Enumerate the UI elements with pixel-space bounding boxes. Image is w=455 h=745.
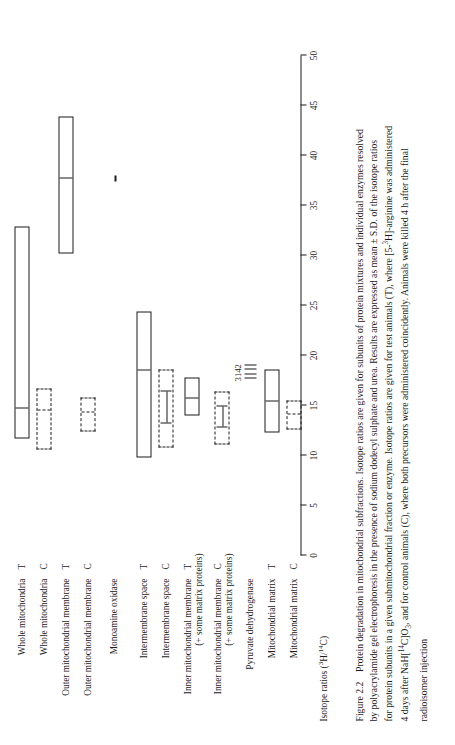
figure-number: Figure 2.2 bbox=[353, 681, 364, 721]
data-annotation-number: 2 bbox=[233, 364, 242, 368]
caption-line-4: 4 days after NaH[14C]O3, and for control… bbox=[395, 21, 416, 721]
category-label-mitochondrial-matrix-c: Mitochondrial matrixC bbox=[288, 553, 299, 721]
axis-tick-label: 25 bbox=[308, 300, 318, 309]
data-annotation-number: 4 bbox=[233, 368, 242, 372]
axis-tick-label: 15 bbox=[308, 400, 318, 409]
data-box-control bbox=[80, 397, 95, 431]
mean-divider bbox=[265, 400, 278, 401]
x-axis: 05101520253035404550 bbox=[300, 55, 330, 555]
cat-text: Pyruvate dehydrogenase bbox=[244, 578, 254, 669]
axis-tick bbox=[300, 554, 306, 555]
data-box-test bbox=[264, 369, 279, 432]
data-box-control bbox=[36, 388, 51, 449]
data-box-test bbox=[184, 377, 199, 415]
rotated-page-wrapper: Whole mitochondriaT Whole mitochondriaC … bbox=[0, 0, 455, 745]
caption-line-5: radioisomer injection bbox=[416, 21, 430, 721]
axis-tick-label: 0 bbox=[308, 553, 318, 558]
axis-tick bbox=[300, 504, 306, 505]
mean-errorbar bbox=[160, 390, 171, 423]
mean-divider bbox=[59, 177, 72, 178]
axis-tick-label: 30 bbox=[308, 250, 318, 259]
cat-text: Mitochondrial matrix bbox=[266, 578, 276, 658]
data-marker-tick bbox=[244, 377, 256, 378]
axis-tick bbox=[300, 354, 306, 355]
axis-tick-label: 5 bbox=[308, 503, 318, 508]
cat-suffix: T bbox=[16, 553, 27, 569]
axis-tick bbox=[300, 454, 306, 455]
cat-text: Intermembrane space bbox=[138, 578, 148, 658]
axis-tick-label: 50 bbox=[308, 50, 318, 59]
mean-divider bbox=[185, 397, 198, 398]
category-label-intermembrane-space-c: Intermembrane spaceC bbox=[160, 553, 171, 721]
cat-text-line2: (+ some matrix proteins) bbox=[193, 553, 204, 721]
category-label-intermembrane-space-t: Intermembrane spaceT bbox=[138, 553, 149, 721]
data-annotation-number: 1 bbox=[233, 372, 242, 376]
category-label-whole-mitochondria-c: Whole mitochondriaC bbox=[38, 553, 49, 721]
cat-suffix: C bbox=[82, 553, 93, 569]
category-label-outer-mitochondrial-membrane-c: Outer mitochondrial membraneC bbox=[82, 553, 93, 721]
cat-suffix: C bbox=[160, 553, 171, 569]
cat-text: Inner mitochondrial membrane bbox=[212, 578, 222, 694]
cat-suffix: T bbox=[138, 553, 149, 569]
caption-line-1: Figure 2.2 Protein degradation in mitoch… bbox=[352, 21, 366, 721]
x-axis-title: Isotope ratios (3H/14C) bbox=[316, 636, 328, 722]
data-box-control bbox=[286, 400, 301, 429]
category-label-pyruvate-dehydrogenase: Pyruvate dehydrogenase bbox=[244, 553, 255, 721]
data-marker-tick bbox=[244, 368, 256, 369]
data-marker-tick bbox=[244, 364, 256, 365]
category-label-outer-mitochondrial-membrane-t: Outer mitochondrial membraneT bbox=[60, 553, 71, 721]
data-annotation-number: 3 bbox=[233, 377, 242, 381]
mean-divider bbox=[15, 407, 28, 408]
mean-divider bbox=[37, 409, 50, 410]
cat-text: Whole mitochondria bbox=[38, 578, 48, 655]
mean-errorbar bbox=[216, 405, 227, 427]
figure-caption: Figure 2.2 Protein degradation in mitoch… bbox=[352, 21, 429, 721]
category-label-monoamine-oxidase: Monoamine oxidase bbox=[108, 553, 119, 721]
axis-tick bbox=[300, 154, 306, 155]
axis-tick bbox=[300, 304, 306, 305]
data-marker-segment bbox=[114, 175, 116, 181]
cat-suffix: C bbox=[38, 553, 49, 569]
data-box-test bbox=[136, 311, 151, 457]
data-box-test bbox=[14, 226, 29, 438]
cat-suffix: T bbox=[182, 553, 193, 569]
axis-tick-label: 20 bbox=[308, 350, 318, 359]
category-label-whole-mitochondria-t: Whole mitochondriaT bbox=[16, 553, 27, 721]
caption-line-3: for protein subunits in a given submitoc… bbox=[379, 21, 395, 721]
data-box-control bbox=[158, 369, 173, 447]
cat-suffix: T bbox=[266, 553, 277, 569]
cat-text: Inner mitochondrial membrane bbox=[182, 578, 192, 694]
axis-tick bbox=[300, 404, 306, 405]
data-box-test bbox=[58, 116, 73, 253]
axis-tick bbox=[300, 254, 306, 255]
cat-text: Intermembrane space bbox=[160, 578, 170, 658]
category-label-inner-mitochondrial-membrane-t: Inner mitochondrial membraneT (+ some ma… bbox=[182, 553, 203, 721]
data-marker-tick bbox=[244, 373, 256, 374]
cat-text: Outer mitochondrial membrane bbox=[60, 578, 70, 695]
cat-text: Monoamine oxidase bbox=[108, 578, 118, 654]
axis-tick bbox=[300, 204, 306, 205]
cat-suffix: C bbox=[212, 553, 223, 569]
category-label-column: Whole mitochondriaT Whole mitochondriaC … bbox=[12, 535, 312, 721]
axis-tick-label: 45 bbox=[308, 100, 318, 109]
category-label-mitochondrial-matrix-t: Mitochondrial matrixT bbox=[266, 553, 277, 721]
cat-suffix: T bbox=[60, 553, 71, 569]
mean-divider bbox=[81, 411, 94, 412]
cat-text: Outer mitochondrial membrane bbox=[82, 578, 92, 695]
axis-tick-label: 40 bbox=[308, 150, 318, 159]
mean-divider bbox=[287, 413, 300, 414]
mean-divider bbox=[137, 369, 150, 370]
axis-tick-label: 35 bbox=[308, 200, 318, 209]
cat-text: Whole mitochondria bbox=[16, 578, 26, 655]
axis-tick bbox=[300, 104, 306, 105]
data-box-control bbox=[214, 391, 229, 444]
chart-area: Whole mitochondriaT Whole mitochondriaC … bbox=[12, 21, 312, 721]
cat-text: Mitochondrial matrix bbox=[288, 578, 298, 658]
figure-page: Whole mitochondriaT Whole mitochondriaC … bbox=[0, 0, 455, 745]
axis-tick bbox=[300, 54, 306, 55]
axis-tick-label: 10 bbox=[308, 450, 318, 459]
category-label-inner-mitochondrial-membrane-c: Inner mitochondrial membraneC (+ some ma… bbox=[212, 553, 233, 721]
caption-line-2: by polyacrylamide gel electrophoresis in… bbox=[366, 21, 380, 721]
plot-area: 3142 bbox=[12, 31, 312, 531]
cat-text-line2: (+ some matrix proteins) bbox=[223, 553, 234, 721]
